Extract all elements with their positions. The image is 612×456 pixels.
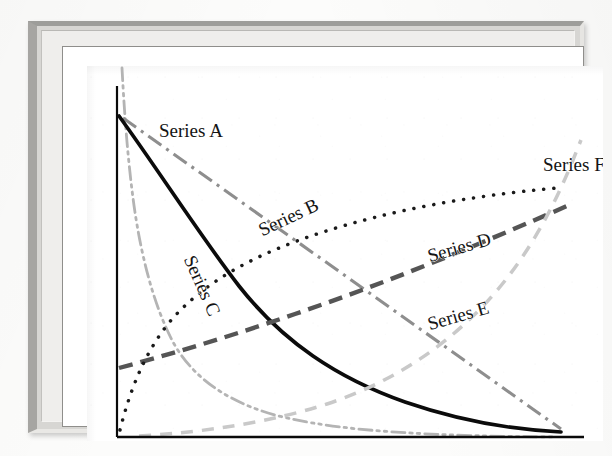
picture-frame-outer: Series A Series B Series C Series D Seri… (28, 21, 584, 433)
chart-plot-canvas: Series A Series B Series C Series D Seri… (87, 66, 603, 441)
series-a-label: Series A (159, 120, 223, 142)
series-d-line (120, 188, 557, 430)
series-f-label: Series F (543, 154, 603, 176)
scanned-page-background: Series A Series B Series C Series D Seri… (0, 0, 612, 456)
picture-frame-hairline-border: Series A Series B Series C Series D Seri… (62, 46, 584, 427)
picture-frame-inner-mat: Series A Series B Series C Series D Seri… (41, 30, 575, 422)
